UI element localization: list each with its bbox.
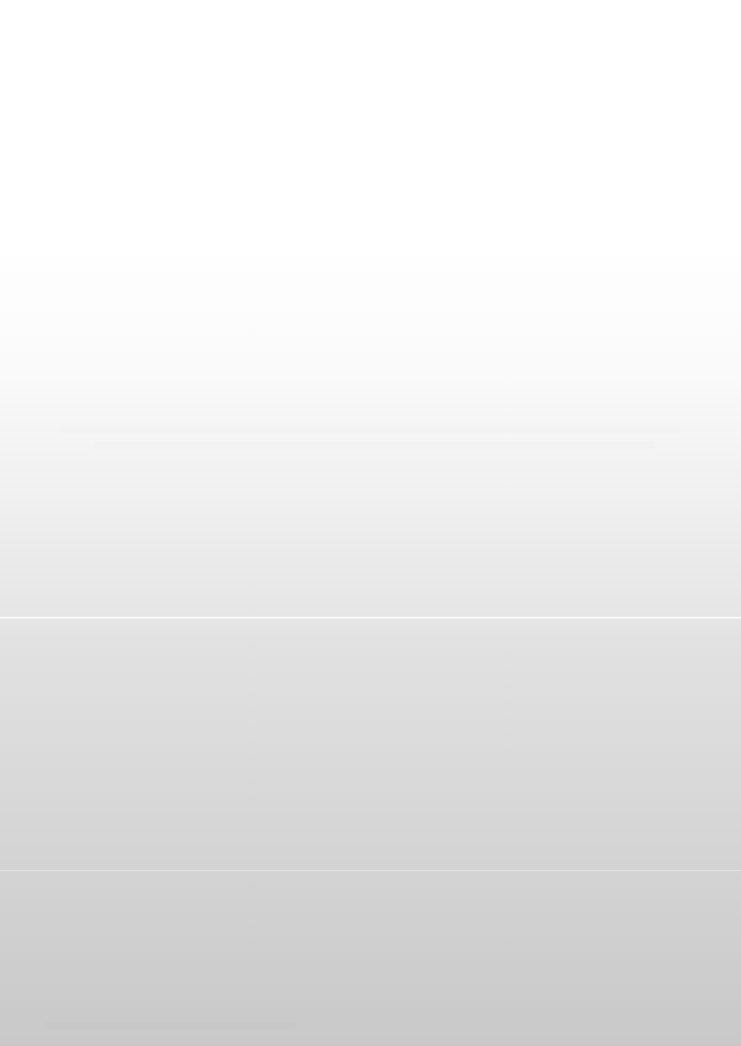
separator-secondary	[0, 870, 741, 871]
page-surface	[0, 0, 741, 1046]
separator-primary	[0, 617, 741, 618]
screen-capture	[0, 0, 741, 1046]
